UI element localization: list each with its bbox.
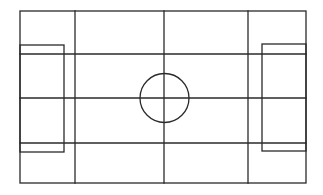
pitch-diagram: [0, 0, 323, 195]
horizontal-grid-lines: [20, 54, 306, 143]
vertical-grid-lines: [75, 11, 248, 183]
outer-boundary: [20, 11, 306, 183]
